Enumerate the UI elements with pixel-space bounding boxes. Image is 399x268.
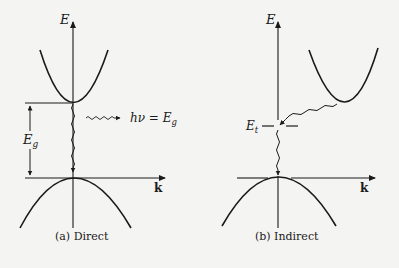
panel-indirect: E Et k (b) Indirect — [222, 12, 378, 243]
caption-indirect: (b) Indirect — [255, 230, 319, 243]
photon-energy-label: hν = Eg — [130, 111, 177, 127]
recombination-wave — [277, 130, 280, 175]
conduction-band — [40, 50, 108, 103]
conduction-band — [309, 48, 378, 102]
valence-band — [20, 178, 131, 228]
k-axis-label: k — [154, 181, 163, 195]
band-diagram: E k Eg hν = Eg (a) Direct E — [0, 0, 399, 268]
panel-direct: E k Eg hν = Eg (a) Direct — [20, 12, 177, 243]
caption-direct: (a) Direct — [55, 230, 109, 243]
capture-wave — [280, 104, 337, 125]
energy-axis-label: E — [265, 12, 276, 27]
photon-wave — [86, 117, 120, 120]
energy-axis-label: E — [59, 12, 70, 27]
k-axis-label: k — [360, 181, 369, 195]
trap-level-label: Et — [245, 119, 259, 135]
valence-band — [222, 177, 336, 226]
